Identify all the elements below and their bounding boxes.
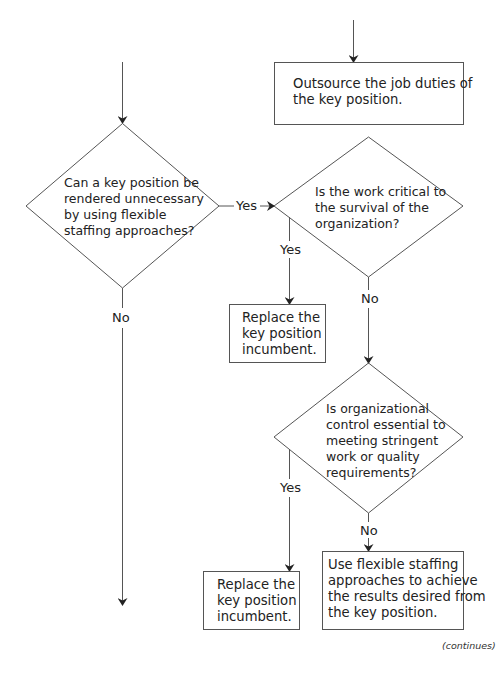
outsource-box-text: Outsource the job duties of the key posi… <box>293 76 472 108</box>
edge-label-flexible-yes: Yes <box>235 199 258 213</box>
edge-label-control-no: No <box>359 524 379 538</box>
decision-critical-text: Is the work critical to the survival of … <box>315 184 446 232</box>
edge-label-flexible-no: No <box>111 311 131 325</box>
continues-note: (continues) <box>442 640 496 651</box>
edge-label-critical-yes: Yes <box>279 243 302 257</box>
replace-box-2-text: Replace the key position incumbent. <box>217 577 297 625</box>
edge-label-control-yes: Yes <box>279 481 302 495</box>
decision-flexible-text: Can a key position be rendered unnecessa… <box>64 175 204 239</box>
decision-control-text: Is organizational control essential to m… <box>326 401 446 481</box>
edge-label-critical-no: No <box>360 292 380 306</box>
replace-box-1-text: Replace the key position incumbent. <box>242 310 322 358</box>
flexible-box-text: Use flexible staffing approaches to achi… <box>328 557 486 621</box>
